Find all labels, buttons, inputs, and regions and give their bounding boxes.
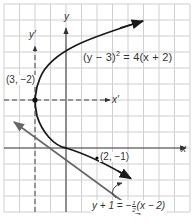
tangent-point-label: (2, −1) <box>99 152 130 162</box>
tangent-equation: y + 1 = −12(x − 2) <box>91 200 166 213</box>
tangent-eq-left: y + 1 = − <box>92 200 131 211</box>
fraction-numerator: 1 <box>132 200 135 207</box>
parabola-equation: (y − 3)2 = 4(x + 2) <box>83 50 172 63</box>
y-prime-axis-label: y′ <box>29 30 36 40</box>
vertex-point <box>32 97 37 102</box>
equation-lhs: (y − 3) <box>83 51 116 63</box>
fraction-denominator: 2 <box>132 207 135 213</box>
y-axis-label: y <box>64 12 69 22</box>
equation-exponent: 2 <box>116 50 120 57</box>
equation-rhs: = 4(x + 2) <box>123 51 172 63</box>
tangent-eq-right: (x − 2) <box>137 200 166 211</box>
fraction: 12 <box>132 200 135 213</box>
vertex-label: (3, −2) <box>5 75 36 85</box>
x-axis-label: x <box>181 144 186 154</box>
x-prime-axis-label: x′ <box>112 95 119 105</box>
